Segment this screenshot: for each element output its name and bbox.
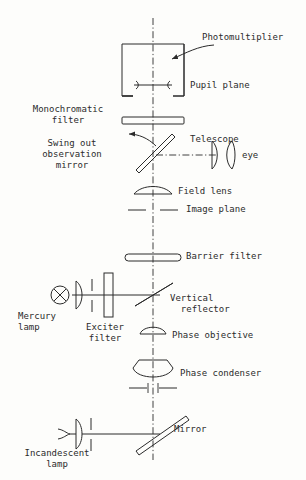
label-mirror: Mirror — [174, 424, 207, 435]
mercury-lamp-symbol — [51, 286, 69, 304]
label-monochromatic-filter: Monochromatic filter — [14, 104, 122, 126]
label-phase-condenser: Phase condenser — [180, 368, 261, 379]
mirror-plate — [136, 416, 189, 455]
label-mercury-lamp: Mercury lamp — [18, 311, 56, 333]
swing-out-observation-mirror-plate — [136, 134, 175, 173]
label-incandescent-lamp: Incandescent lamp — [8, 448, 106, 470]
swing-out-arrow — [129, 134, 156, 146]
label-swing-out-observation-mirror: Swing out observation mirror — [22, 138, 122, 171]
label-image-plane: Image plane — [186, 204, 246, 215]
photomultiplier-pointer-arrow — [172, 45, 214, 59]
label-photomultiplier: Photomultiplier — [202, 32, 283, 43]
label-phase-objective: Phase objective — [172, 330, 253, 341]
label-telescope: Telescope — [190, 134, 239, 145]
optical-diagram-canvas — [0, 0, 306, 480]
label-vertical-reflector: Vertical reflector — [170, 293, 230, 315]
optical-diagram: Photomultiplier Pupil plane Monochromati… — [0, 0, 306, 480]
label-barrier-filter: Barrier filter — [186, 251, 262, 262]
eye-symbol — [227, 141, 235, 169]
label-field-lens: Field lens — [178, 186, 232, 197]
label-pupil-plane: Pupil plane — [190, 80, 250, 91]
incandescent-lamp-symbol — [58, 429, 76, 439]
label-exciter-filter: Exciter filter — [72, 322, 138, 344]
incandescent-collector-lens-element — [76, 419, 82, 449]
label-eye: eye — [242, 150, 258, 161]
